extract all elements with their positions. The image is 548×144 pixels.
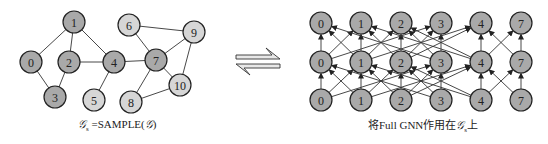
original-graph-nodes: 012345678910 <box>20 11 205 113</box>
graph-node-10: 10 <box>169 74 191 96</box>
layer-0-node-2: 2 <box>390 89 412 111</box>
graph-node-8: 8 <box>120 91 142 113</box>
svg-text:4: 4 <box>478 56 484 70</box>
layer-1-node-7: 7 <box>510 51 532 73</box>
graph-node-3: 3 <box>44 86 66 108</box>
svg-text:0: 0 <box>318 94 324 108</box>
svg-text:10: 10 <box>174 79 186 93</box>
layer-2-node-1: 1 <box>350 12 372 34</box>
svg-text:2: 2 <box>398 56 404 70</box>
svg-text:0: 0 <box>318 17 324 31</box>
svg-text:4: 4 <box>478 94 484 108</box>
layer-0-node-1: 1 <box>350 89 372 111</box>
layer-2-node-4: 4 <box>470 12 492 34</box>
svg-text:8: 8 <box>128 96 134 110</box>
svg-text:1: 1 <box>71 16 77 30</box>
layer-2-node-2: 2 <box>390 12 412 34</box>
svg-text:1: 1 <box>358 56 364 70</box>
graph-node-7: 7 <box>145 49 167 71</box>
svg-text:1: 1 <box>358 17 364 31</box>
graph-node-0: 0 <box>20 51 42 73</box>
equilibrium-harpoon-icon <box>236 48 280 75</box>
svg-text:0: 0 <box>318 56 324 70</box>
svg-text:7: 7 <box>518 94 524 108</box>
graph-node-5: 5 <box>83 89 105 111</box>
svg-text:4: 4 <box>111 56 117 70</box>
layer-0-node-0: 0 <box>310 89 332 111</box>
graph-node-6: 6 <box>118 14 140 36</box>
svg-text:7: 7 <box>518 56 524 70</box>
layer-2-node-0: 0 <box>310 12 332 34</box>
layer-1-node-3: 3 <box>430 51 452 73</box>
svg-text:3: 3 <box>52 91 58 105</box>
layer-0-node-4: 4 <box>470 89 492 111</box>
svg-text:5: 5 <box>91 94 97 108</box>
layer-1-node-1: 1 <box>350 51 372 73</box>
svg-text:7: 7 <box>153 54 159 68</box>
layer-0-node-3: 3 <box>430 89 452 111</box>
graph-node-1: 1 <box>63 11 85 33</box>
svg-text:3: 3 <box>438 94 444 108</box>
layer-1-node-0: 0 <box>310 51 332 73</box>
svg-text:4: 4 <box>478 17 484 31</box>
svg-text:6: 6 <box>126 19 132 33</box>
sample-caption: 𝒢s =SAMPLE(𝒢) <box>78 118 156 133</box>
gnn-layer-nodes: 012347012347012347 <box>310 12 532 111</box>
layer-0-node-7: 7 <box>510 89 532 111</box>
svg-text:3: 3 <box>438 56 444 70</box>
svg-text:9: 9 <box>191 26 197 40</box>
svg-text:3: 3 <box>438 17 444 31</box>
layer-1-node-4: 4 <box>470 51 492 73</box>
graph-node-2: 2 <box>58 51 80 73</box>
svg-text:1: 1 <box>358 94 364 108</box>
svg-text:0: 0 <box>28 56 34 70</box>
svg-text:2: 2 <box>398 94 404 108</box>
svg-text:2: 2 <box>66 56 72 70</box>
layer-2-node-7: 7 <box>510 12 532 34</box>
sampled-graph-symbol: 𝒢 <box>78 118 86 130</box>
gnn-caption: 将Full GNN作用在𝒢s上 <box>368 116 478 134</box>
graph-node-4: 4 <box>103 51 125 73</box>
svg-text:2: 2 <box>398 17 404 31</box>
svg-text:7: 7 <box>518 17 524 31</box>
layer-1-node-2: 2 <box>390 51 412 73</box>
layer-2-node-3: 3 <box>430 12 452 34</box>
graph-node-9: 9 <box>183 21 205 43</box>
